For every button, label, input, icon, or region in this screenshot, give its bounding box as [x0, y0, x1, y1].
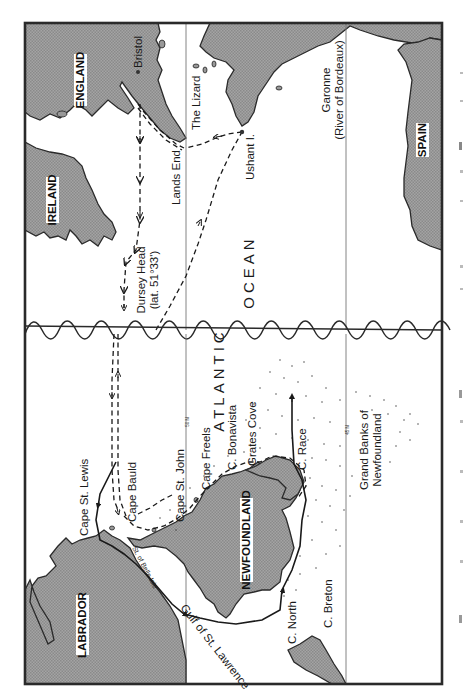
label-atlantic: ATLANTIC	[210, 328, 227, 431]
island	[57, 111, 67, 117]
label-dursey-head: Dursey Head	[135, 246, 147, 313]
caption-fragment	[459, 142, 462, 150]
scilly-island	[203, 67, 207, 73]
label-england: ENGLAND	[74, 52, 87, 109]
label-lat-45n: 45 N	[345, 425, 350, 435]
label-c-north: C. North	[286, 601, 298, 644]
label-lat-50n: 50 N	[185, 417, 190, 427]
bristol-marker	[136, 70, 140, 74]
label-newfoundland: NEWFOUNDLAND	[240, 490, 253, 590]
label-bristol: Bristol	[132, 36, 144, 68]
scilly-island	[193, 64, 199, 68]
caption-fragment	[459, 390, 462, 398]
label-dursey-lat: (lat. 51°33')	[148, 251, 160, 310]
label-spain: SPAIN	[416, 123, 429, 157]
label-ocean: OCEAN	[240, 235, 257, 308]
label-cape-st-lewis: Cape St. Lewis	[78, 458, 90, 536]
label-grand-banks-1: Grand Banks of	[358, 409, 370, 490]
scilly-island	[212, 61, 216, 67]
ushant-marker	[240, 130, 244, 134]
label-the-lizard: The Lizard	[190, 76, 202, 130]
island	[110, 526, 115, 530]
label-cape-freels: Cape Freels	[200, 427, 212, 490]
label-cape-bauld: Cape Bauld	[126, 462, 138, 522]
svg-text:NEWFOUNDLAND: NEWFOUNDLAND	[240, 490, 252, 590]
label-grates-cove: Grates Cove	[246, 401, 258, 466]
island	[159, 40, 165, 48]
island	[276, 86, 282, 90]
label-labrador: LABRADOR	[76, 591, 89, 657]
label-c-breton: C. Breton	[322, 579, 334, 628]
svg-text:IRELAND: IRELAND	[46, 174, 58, 225]
label-lands-end: Lands End	[170, 150, 182, 205]
svg-text:ENGLAND: ENGLAND	[74, 52, 86, 109]
label-c-bonavista: C. Bonavista	[226, 404, 238, 470]
label-cape-st-john: Cape St. John	[174, 449, 186, 522]
label-ushant: Ushant I.	[244, 134, 256, 180]
svg-text:LABRADOR: LABRADOR	[76, 591, 88, 657]
label-c-race: C. Race	[296, 428, 308, 470]
label-grand-banks-2: Newfoundland	[371, 413, 383, 487]
label-ireland: IRELAND	[46, 174, 59, 225]
caption-fragment	[459, 615, 462, 623]
svg-text:SPAIN: SPAIN	[416, 123, 428, 157]
label-garonne: Garonne	[320, 68, 332, 113]
label-garonne-sub: (River of Bordeaux)	[333, 40, 345, 140]
